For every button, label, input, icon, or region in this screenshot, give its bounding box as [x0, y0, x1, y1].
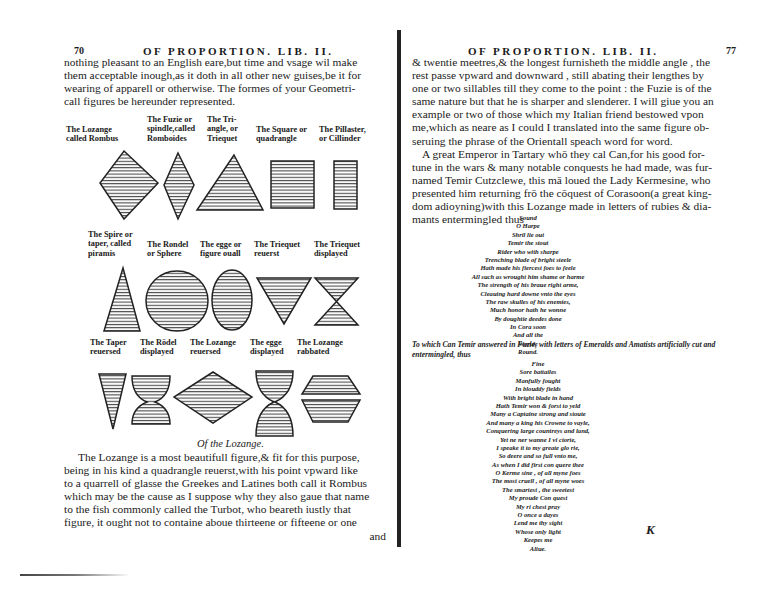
left-closing-text: The Lozange is a most beautifull figure,… [64, 451, 386, 543]
triequet-displayed-shape [315, 278, 358, 325]
poem-line: Fine [448, 360, 628, 368]
poem-line: Whose only light [448, 528, 628, 536]
fuzie-shape [164, 153, 194, 219]
catchword: and [64, 530, 386, 543]
poem-line: The strength of his braue right arme, [430, 281, 626, 289]
poem-line: The raw skulles of his enemies, [430, 298, 626, 306]
poem-line: My proude Con quest [448, 494, 628, 502]
poem-line: And all the [430, 331, 626, 339]
rondel-shape [146, 271, 208, 331]
text-line: me,which as neare as I could I translate… [412, 121, 732, 134]
text-line: dom adioyning)with this Lozange made in … [412, 200, 732, 213]
text-line: A great Emperor in Tartary whō they cal … [412, 148, 732, 161]
square-shape [271, 161, 314, 208]
right-page: OF PROPORTION. LIB. II. 77 & twentie mee… [398, 0, 759, 607]
spire-shape [104, 268, 140, 331]
poem-line: In Cora soon [430, 323, 626, 331]
margin-mark: K [646, 522, 655, 538]
poem-line: All such as wrought him shame or harme [430, 273, 626, 281]
poem-line: Trenching blade of bright steele [430, 256, 626, 264]
poem-line: By doughtie deedes done [430, 315, 626, 323]
poem-line: Keepes me [448, 536, 628, 544]
lozange-rabbated-bottom-shape [302, 400, 360, 422]
text-line: rest passe vpward and downward , still a… [412, 69, 732, 82]
poem-line: Rider who with sharpe [430, 248, 626, 256]
text-line: The Lozange is a most beautifull figure,… [64, 451, 386, 464]
text-line: tune in the wars & many notable conquest… [412, 161, 732, 174]
egge-shape [212, 270, 252, 330]
poem-line: Sound [430, 214, 626, 222]
text-line: to a quarrell of glasse the Greekes and … [64, 477, 386, 490]
text-line: seruing the phrase of the Orientall spea… [412, 135, 732, 148]
poem-line: Sore battailes [448, 368, 628, 376]
poem-line: Hath made his fiercest foes to feele [430, 264, 626, 272]
text-line: one or two sillables till they come to t… [412, 82, 732, 95]
fuzie-intro: To which Can Temir answered in Fuzie, wi… [412, 340, 728, 360]
poem-line: Hath Temir won & forst to yeld [448, 402, 628, 410]
poem-line: Many a Captaine strong and stoute [448, 410, 628, 418]
label-triequet-displayed: The Triequet displayed [314, 240, 360, 259]
text-line: & twentie meetres,& the longest furnishe… [412, 56, 732, 69]
poem-line: With bright blade in hand [448, 394, 628, 402]
poem-line: And many a king his Crowne to vayle, [448, 419, 628, 427]
poem-line: Manfully fought [448, 377, 628, 385]
text-line: named Temir Cutzclewe, this mā loued the… [412, 174, 732, 187]
rondel-displayed-shape [132, 376, 170, 424]
egge-displayed-shape [256, 371, 293, 436]
text-line: being in his kind a quadrangle reuerst,w… [64, 464, 386, 477]
text-line: to the fish commonly called the Turbot, … [64, 503, 386, 516]
poem-line: In blouddy fields [448, 385, 628, 393]
poem-line: Yet ne ner wanne I vi ctorie, [448, 436, 628, 444]
poem-line: So deere and so full vnto me, [448, 452, 628, 460]
text-line: example or two of those which my Italian… [412, 108, 732, 121]
poem-line: O once a dayes [448, 511, 628, 519]
poem-line: Much honor hath he wonne [430, 306, 626, 314]
taper-reuersed-shape [99, 374, 126, 429]
poem-line: The most cruell , of all myne woes [448, 477, 628, 485]
poem-line: Conquering large countreys and land, [448, 427, 628, 435]
poem-line: O Harpe [430, 222, 626, 230]
triangle-shape [197, 155, 263, 210]
right-paragraph: & twentie meetres,& the longest furnishe… [412, 56, 732, 226]
text-line: presented him returning frō the cōquest … [412, 187, 732, 200]
text-line: same nature but that he is sharper and s… [412, 95, 732, 108]
poem-line: Cleauing hard downe vnto the eyes [430, 290, 626, 298]
label-triequet-reuerst: The Triequet reuerst [254, 240, 300, 259]
label-egge-displayed: The egge displayed [250, 338, 284, 357]
label-rondel: The Rondel or Sphere [147, 240, 188, 259]
text-line: which may be the cause as I suppose why … [64, 490, 386, 503]
poem-line: O Kerme sine , of all myne foes [448, 469, 628, 477]
lozange-shape [100, 151, 158, 219]
lozange-poem: Sound O Harpe Shril lie out Temir the st… [430, 214, 626, 357]
left-page: 70 OF PROPORTION. LIB. II. nothing pleas… [0, 0, 398, 607]
label-egge: The egge or figure ouall [200, 240, 241, 259]
poem-line: Shril lie out [430, 231, 626, 239]
label-lozange-reuersed: The Lozange reuersed [190, 338, 236, 357]
page-edge-mark [20, 574, 130, 576]
label-taper-reuersed: The Taper reuersed [90, 338, 127, 357]
poem-line: As when I did first con quere thee [448, 461, 628, 469]
fuzie-poem: Fine Sore battailes Manfully fought In b… [448, 360, 628, 553]
label-spire: The Spire or taper, called piramis [88, 230, 133, 258]
pillaster-shape [334, 161, 357, 209]
poem-line: I speake it to my greate glo rie, [448, 444, 628, 452]
triequet-reuerst-shape [257, 278, 311, 324]
label-rondel-displayed: The Rōdel displayed [140, 338, 177, 357]
poem-line: The smartest , the sweetest [448, 486, 628, 494]
lozange-rabbated-top-shape [302, 376, 360, 394]
poem-line: Lend me thy sight [448, 519, 628, 527]
poem-line: My ri chest pray [448, 503, 628, 511]
lozange-reuersed-shape [174, 372, 252, 423]
poem-line: Aliue. [448, 545, 628, 553]
text-line: figure, it ought not to containe aboue t… [64, 516, 386, 529]
label-lozange-rabbated: The Lozange rabbated [297, 338, 343, 357]
right-folio: 77 [726, 45, 736, 56]
section-caption: Of the Lozange. [197, 438, 264, 449]
poem-line: Temir the stout [430, 239, 626, 247]
